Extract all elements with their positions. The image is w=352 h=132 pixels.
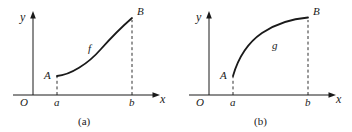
panel-b-graphic [176, 0, 352, 132]
figure-container: y x O a b A B f (a) y x O a b A B [0, 0, 352, 132]
point-label-A: A [220, 70, 227, 81]
tick-label-b: b [305, 97, 311, 108]
panel-a-graphic [0, 0, 176, 132]
panel-b: y x O a b A B g (b) [176, 0, 352, 132]
x-axis-arrow [329, 92, 337, 98]
curve-g [233, 18, 308, 77]
curve-label-g: g [272, 40, 278, 51]
curve-f [57, 18, 132, 76]
panel-b-caption: (b) [254, 116, 267, 127]
panel-a-caption: (a) [78, 116, 90, 127]
panel-a: y x O a b A B f (a) [0, 0, 176, 132]
y-axis-arrow [206, 11, 212, 19]
point-label-B: B [313, 6, 320, 17]
y-axis-label: y [20, 11, 25, 23]
x-axis-label: x [160, 93, 165, 105]
origin-label: O [20, 97, 28, 108]
y-axis-label: y [196, 11, 201, 23]
point-label-A: A [44, 70, 51, 81]
x-axis-arrow [153, 92, 161, 98]
x-axis-label: x [336, 93, 341, 105]
tick-label-b: b [129, 97, 135, 108]
tick-label-a: a [230, 97, 236, 108]
tick-label-a: a [54, 97, 60, 108]
y-axis-arrow [30, 11, 36, 19]
point-label-B: B [137, 6, 144, 17]
origin-label: O [196, 97, 204, 108]
curve-label-f: f [88, 43, 91, 54]
